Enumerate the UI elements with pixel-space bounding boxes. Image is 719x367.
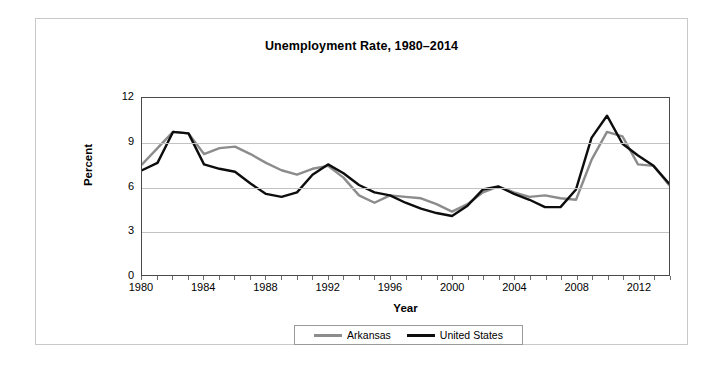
x-axis-tick-labels: 198019841988199219962000200420082012 <box>141 281 670 299</box>
x-tick-mark-2005 <box>530 276 531 280</box>
legend-label: Arkansas <box>347 330 391 341</box>
y-tick-label-9: 9 <box>104 135 134 147</box>
x-tick-label-1984: 1984 <box>183 281 223 293</box>
x-tick-label-1992: 1992 <box>308 281 348 293</box>
x-tick-mark-2002 <box>483 276 484 280</box>
x-tick-mark-1984 <box>203 276 204 280</box>
x-tick-mark-1996 <box>390 276 391 280</box>
x-tick-mark-2007 <box>561 276 562 280</box>
x-tick-mark-1999 <box>437 276 438 280</box>
x-tick-mark-1986 <box>234 276 235 280</box>
legend-entry-united-states[interactable]: United States <box>407 330 503 341</box>
x-tick-label-1980: 1980 <box>121 281 161 293</box>
x-tick-mark-2011 <box>623 276 624 280</box>
x-tick-mark-1995 <box>374 276 375 280</box>
legend-swatch-icon <box>314 334 342 337</box>
x-tick-mark-2013 <box>654 276 655 280</box>
x-tick-mark-2003 <box>499 276 500 280</box>
x-tick-mark-1980 <box>141 276 142 280</box>
y-tick-label-3: 3 <box>104 224 134 236</box>
y-axis-tick-labels: 129630 <box>98 97 134 276</box>
x-tick-mark-2008 <box>577 276 578 280</box>
x-tick-mark-2004 <box>514 276 515 280</box>
gridline-6 <box>142 188 669 189</box>
x-tick-label-2000: 2000 <box>432 281 472 293</box>
x-tick-mark-1981 <box>157 276 158 280</box>
y-tick-label-12: 12 <box>104 90 134 102</box>
x-tick-mark-1987 <box>250 276 251 280</box>
x-tick-mark-1990 <box>297 276 298 280</box>
legend: ArkansasUnited States <box>294 325 523 345</box>
plot-area <box>141 97 670 276</box>
x-tick-label-2012: 2012 <box>619 281 659 293</box>
x-tick-mark-2012 <box>639 276 640 280</box>
x-tick-label-1996: 1996 <box>370 281 410 293</box>
y-axis-title: Percent <box>82 105 94 225</box>
x-tick-mark-2010 <box>608 276 609 280</box>
gridline-9 <box>142 143 669 144</box>
x-tick-mark-1983 <box>188 276 189 280</box>
x-tick-mark-1993 <box>343 276 344 280</box>
x-tick-mark-2001 <box>468 276 469 280</box>
x-tick-mark-1992 <box>328 276 329 280</box>
x-tick-mark-1985 <box>219 276 220 280</box>
x-tick-mark-1988 <box>265 276 266 280</box>
x-tick-label-1988: 1988 <box>245 281 285 293</box>
series-lines <box>142 98 669 275</box>
legend-entry-arkansas[interactable]: Arkansas <box>314 330 391 341</box>
x-tick-mark-1997 <box>406 276 407 280</box>
x-tick-label-2008: 2008 <box>557 281 597 293</box>
x-tick-mark-1998 <box>421 276 422 280</box>
x-tick-mark-1982 <box>172 276 173 280</box>
x-axis-title: Year <box>141 302 670 314</box>
x-tick-mark-1989 <box>281 276 282 280</box>
chart-title: Unemployment Rate, 1980–2014 <box>36 39 687 53</box>
x-tick-mark-1991 <box>312 276 313 280</box>
x-tick-mark-1994 <box>359 276 360 280</box>
x-tick-mark-2014 <box>670 276 671 280</box>
x-tick-mark-2009 <box>592 276 593 280</box>
legend-swatch-icon <box>407 334 435 337</box>
y-tick-label-0: 0 <box>104 269 134 281</box>
figure-frame: Unemployment Rate, 1980–2014 Percent 129… <box>35 18 688 345</box>
x-tick-label-2004: 2004 <box>494 281 534 293</box>
legend-label: United States <box>440 330 503 341</box>
y-tick-label-6: 6 <box>104 180 134 192</box>
x-tick-mark-2000 <box>452 276 453 280</box>
gridline-3 <box>142 232 669 233</box>
x-tick-mark-2006 <box>546 276 547 280</box>
